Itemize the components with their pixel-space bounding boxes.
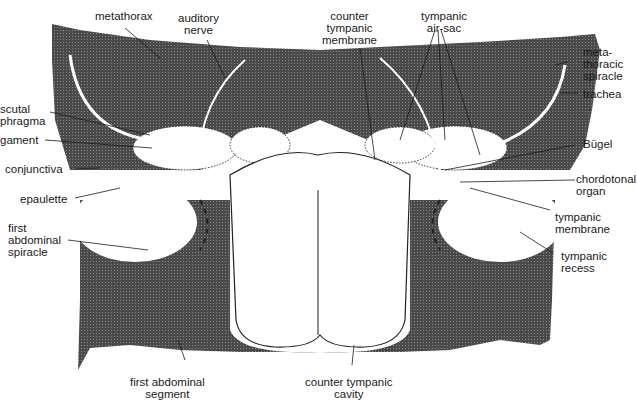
label-first-abdominal-spiracle: first abdominal spiracle <box>8 222 61 258</box>
label-epaulette: epaulette <box>20 193 67 205</box>
tympanic-air-sac-mid-right <box>365 127 435 163</box>
label-first-abdominal-segment: first abdominal segment <box>130 376 205 400</box>
label-metathoracic-spiracle: meta- thoracic spiracle <box>583 46 623 82</box>
tympanal-organ-diagram: metathorax auditory nerve counter tympan… <box>0 0 637 404</box>
counter-tympanic-cavity <box>230 153 410 348</box>
label-scutal-phragma: scutal phragma <box>0 103 45 127</box>
label-trachea: trachea <box>583 88 621 100</box>
label-conjunctiva: conjunctiva <box>5 163 63 175</box>
tympanic-recess-right <box>438 182 562 262</box>
diagram-artwork <box>0 0 637 404</box>
label-tympanic-air-sac: tympanic air-sac <box>421 10 467 34</box>
label-ligament: gament <box>0 134 38 146</box>
label-auditory-nerve: auditory nerve <box>178 12 219 36</box>
label-tympanic-membrane: tympanic membrane <box>555 211 610 235</box>
label-counter-tympanic-membrane: counter tympanic membrane <box>322 10 377 46</box>
label-counter-tympanic-cavity: counter tympanic cavity <box>305 376 393 400</box>
label-chordotonal-organ: chordotonal organ <box>576 173 636 197</box>
label-tympanic-recess: tympanic recess <box>561 250 607 274</box>
label-bugel: Bügel <box>583 138 612 150</box>
label-metathorax: metathorax <box>95 10 153 22</box>
